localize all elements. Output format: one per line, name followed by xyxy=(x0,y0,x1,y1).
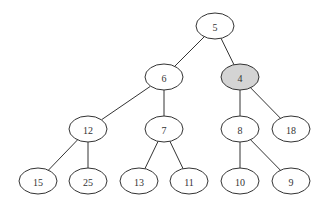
tree-node-15: 15 xyxy=(19,168,57,194)
tree-edges xyxy=(48,37,280,170)
node-label: 18 xyxy=(286,125,296,136)
node-label: 6 xyxy=(162,73,167,84)
node-label: 12 xyxy=(83,125,93,136)
node-label: 4 xyxy=(238,73,243,84)
edge-12-15 xyxy=(48,140,77,170)
node-label: 9 xyxy=(289,177,294,188)
tree-node-18: 18 xyxy=(272,116,310,142)
node-label: 5 xyxy=(213,22,218,33)
edge-4-18 xyxy=(251,88,281,118)
edge-6-12 xyxy=(101,86,150,120)
node-label: 8 xyxy=(238,125,243,136)
tree-node-12: 12 xyxy=(69,116,107,142)
tree-node-10: 10 xyxy=(221,168,259,194)
tree-node-5: 5 xyxy=(196,13,234,39)
edge-7-11 xyxy=(170,141,183,168)
tree-node-25: 25 xyxy=(69,168,107,194)
edge-8-9 xyxy=(251,140,281,170)
node-label: 15 xyxy=(33,177,43,188)
node-label: 7 xyxy=(162,125,167,136)
tree-diagram: 56412781815251311109 xyxy=(0,0,325,208)
tree-node-8: 8 xyxy=(221,116,259,142)
tree-node-13: 13 xyxy=(120,168,158,194)
tree-node-4: 4 xyxy=(221,64,259,90)
node-label: 11 xyxy=(184,177,194,188)
tree-node-9: 9 xyxy=(272,168,310,194)
edge-5-6 xyxy=(175,37,205,67)
node-label: 13 xyxy=(134,177,144,188)
tree-node-7: 7 xyxy=(145,116,183,142)
node-label: 10 xyxy=(235,177,245,188)
edge-5-4 xyxy=(221,38,234,64)
node-label: 25 xyxy=(83,177,93,188)
edge-7-13 xyxy=(145,141,158,168)
tree-node-11: 11 xyxy=(170,168,208,194)
tree-node-6: 6 xyxy=(145,64,183,90)
